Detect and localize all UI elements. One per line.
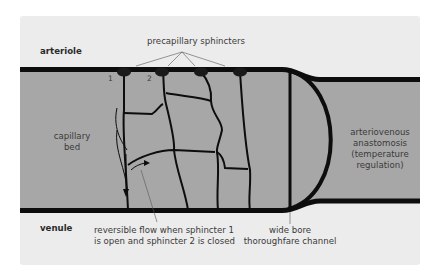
arteriole-label: arteriole (40, 46, 82, 57)
reversible-flow-label-2: is open and sphincter 2 is closed (94, 236, 235, 247)
precapillary-sphincters-label: precapillary sphincters (147, 36, 245, 47)
sphincter-4 (233, 68, 247, 77)
sphincter-number-1: 1 (108, 74, 113, 83)
reversible-flow-label-1: reversible flow when sphincter 1 (94, 225, 234, 236)
sphincter-3 (194, 68, 208, 77)
capillary-bed-label-1: capillary (54, 131, 91, 142)
av-label-4: regulation) (356, 160, 403, 171)
sphincter-2 (155, 68, 169, 77)
capillary-bed-label-2: bed (64, 142, 80, 153)
sphincter-number-2: 2 (147, 74, 152, 83)
thoroughfare-label-1: wide bore (269, 225, 311, 236)
sphincter-1 (117, 68, 131, 77)
av-label-1: arteriovenous (350, 127, 410, 138)
thoroughfare-label-2: thoroughfare channel (244, 236, 337, 247)
sphincter-leader-lines (136, 52, 225, 66)
av-label-3: (temperature (351, 149, 408, 160)
av-label-2: anastomosis (353, 138, 407, 149)
venule-label: venule (40, 223, 72, 234)
